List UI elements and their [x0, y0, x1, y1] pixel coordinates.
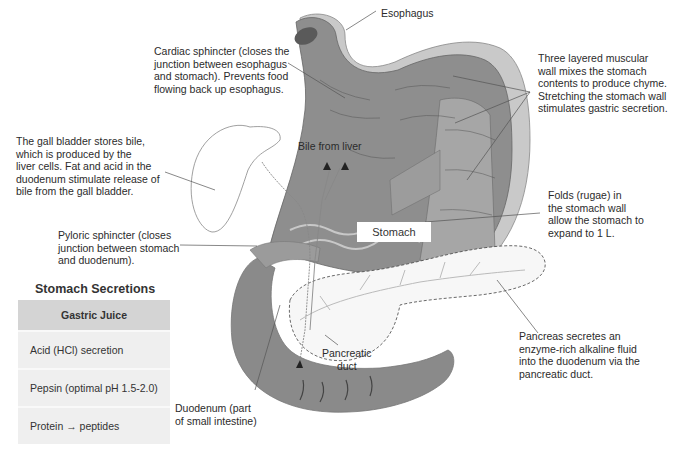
- label-pancreatic-duct: Pancreatic duct: [322, 347, 372, 372]
- label-duodenum: Duodenum (part of small intestine): [175, 402, 257, 427]
- label-bile-from-liver: Bile from liver: [298, 140, 362, 153]
- label-pancreas: Pancreas secretes an enzyme-rich alkalin…: [519, 330, 640, 380]
- secretions-table-title: Stomach Secretions: [35, 282, 155, 296]
- secretions-row: Pepsin (optimal pH 1.5-2.0): [18, 369, 170, 407]
- label-rugae: Folds (rugae) in the stomach wall allow …: [548, 189, 644, 239]
- label-gall-bladder: The gall bladder stores bile, which is p…: [16, 135, 160, 198]
- label-muscular-wall: Three layered muscular wall mixes the st…: [538, 52, 668, 115]
- label-esophagus: Esophagus: [381, 7, 434, 20]
- gall-bladder: [191, 125, 280, 232]
- secretions-row: Acid (HCl) secretion: [18, 331, 170, 369]
- label-cardiac-sphincter: Cardiac sphincter (closes the junction b…: [154, 45, 289, 95]
- label-pyloric-sphincter: Pyloric sphincter (closes junction betwe…: [58, 229, 179, 267]
- secretions-row: Protein → peptides: [18, 407, 170, 444]
- label-stomach: Stomach: [357, 222, 431, 242]
- secretions-table: Gastric Juice Acid (HCl) secretion Pepsi…: [18, 300, 170, 444]
- secretions-table-header: Gastric Juice: [18, 300, 170, 331]
